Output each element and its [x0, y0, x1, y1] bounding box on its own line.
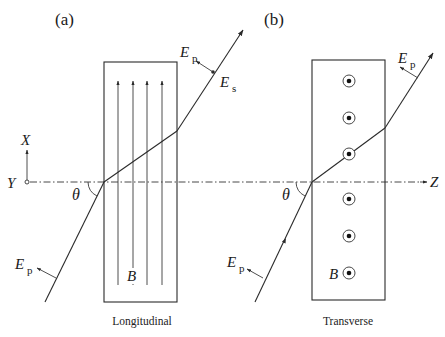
field-lines-a	[118, 81, 162, 285]
crystal-b	[312, 60, 385, 300]
magneto-optic-diagram: Z X Y (a) B θ E p E	[0, 0, 445, 337]
z-axis-label: Z	[430, 174, 439, 190]
dot-in-circle-icon	[343, 267, 355, 279]
exit-es-sub-a: s	[232, 82, 236, 94]
caption-transverse: Transverse	[323, 315, 373, 327]
incident-ep-arrow-icon-b	[247, 269, 263, 278]
incident-ep-sub-a: p	[27, 264, 33, 276]
x-axis-label: X	[20, 132, 31, 148]
exit-ep-sub-b: p	[410, 58, 416, 70]
field-out-of-page-b	[343, 75, 355, 279]
dot-in-circle-icon	[343, 193, 355, 205]
light-ray-b	[255, 53, 433, 302]
exit-ep-label-b: E	[397, 50, 407, 66]
field-b-label-a: B	[127, 268, 136, 284]
angle-arc-a	[88, 182, 97, 196]
angle-arc-b	[296, 182, 305, 196]
exit-ep-sub-a: p	[192, 52, 198, 64]
dot-in-circle-icon	[343, 75, 355, 87]
exit-ep-arrow-icon-a	[196, 61, 213, 72]
incident-ep-label-a: E	[14, 256, 24, 272]
y-axis-label: Y	[7, 175, 17, 191]
panel-a-label: (a)	[55, 10, 74, 29]
dot-in-circle-icon	[343, 230, 355, 242]
incident-ep-label-b: E	[226, 254, 236, 270]
dot-in-circle-icon	[343, 112, 355, 124]
dot-in-circle-icon	[343, 148, 355, 160]
panel-b: (b) B θ E p E p Transverse	[226, 10, 433, 327]
panel-b-label: (b)	[264, 10, 284, 29]
angle-theta-b: θ	[282, 186, 290, 203]
exit-ep-label-a: E	[179, 44, 189, 60]
panel-a: (a) B θ E p E p E s Longitudinal	[14, 10, 243, 328]
incident-ep-arrow-icon-a	[37, 268, 56, 278]
field-b-label-b: B	[329, 266, 338, 282]
coordinate-origin	[25, 150, 29, 184]
caption-longitudinal: Longitudinal	[112, 315, 171, 328]
incident-ep-sub-b: p	[239, 262, 245, 274]
angle-theta-a: θ	[72, 186, 80, 203]
exit-es-label-a: E	[219, 74, 229, 90]
y-axis-origin-icon	[25, 180, 29, 184]
